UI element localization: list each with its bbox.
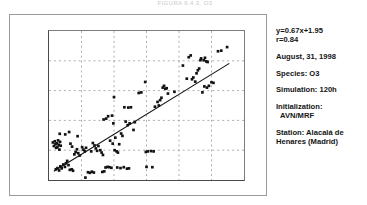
date-label: August, 31, 1998 <box>276 52 366 61</box>
date-block: August, 31, 1998 <box>276 52 366 61</box>
x-tick-mark <box>115 180 116 181</box>
y-tick-mark <box>48 152 49 153</box>
x-tick-mark <box>82 180 83 181</box>
annotation-panel: y=0.67x+1.95 r=0.84 August, 31, 1998 Spe… <box>276 26 366 146</box>
y-tick-mark <box>48 31 49 32</box>
regression-equation: y=0.67x+1.95 <box>276 26 366 35</box>
simulation-block: Simulation: 120h <box>276 85 366 94</box>
x-tick-mark <box>213 180 214 181</box>
figure-root: FIGURA 6.4.3. O3 01020304050010203040506… <box>0 0 367 205</box>
initialization-value: AVN/MRF <box>276 111 366 120</box>
y-tick-mark <box>48 122 49 123</box>
correlation-coefficient: r=0.84 <box>276 35 366 44</box>
x-tick-mark <box>180 180 181 181</box>
species-block: Species: O3 <box>276 69 366 78</box>
initialization-block: Initialization: AVN/MRF <box>276 102 366 120</box>
x-tick-mark <box>49 180 50 181</box>
x-tick-mark <box>148 180 149 181</box>
species-label: Species: O3 <box>276 69 366 78</box>
figure-caption: FIGURA 6.4.3. O3 <box>130 0 240 7</box>
y-tick-mark <box>48 61 49 62</box>
y-tick-mark <box>48 91 49 92</box>
scatter-plot-area: 010203040500102030405060 <box>48 30 245 181</box>
regression-stats: y=0.67x+1.95 r=0.84 <box>276 26 366 44</box>
figure-frame: 010203040500102030405060 <box>9 14 267 196</box>
station-block: Station: Alacalá de Henares (Madrid) <box>276 128 366 146</box>
data-layer <box>49 31 244 180</box>
initialization-label: Initialization: <box>276 102 366 111</box>
station-label: Station: Alacalá de Henares (Madrid) <box>276 128 366 146</box>
simulation-label: Simulation: 120h <box>276 85 366 94</box>
